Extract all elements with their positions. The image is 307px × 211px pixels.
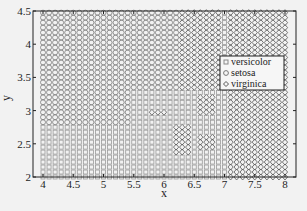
versicolor-marker	[83, 145, 87, 149]
setosa-marker	[47, 30, 52, 35]
versicolor-marker	[156, 165, 160, 169]
versicolor-marker	[216, 165, 220, 169]
setosa-marker	[95, 100, 100, 105]
versicolor-marker	[71, 145, 75, 149]
setosa-marker	[47, 65, 52, 70]
setosa-marker	[143, 25, 148, 30]
setosa-marker	[65, 70, 70, 75]
setosa-marker	[95, 90, 100, 95]
setosa-marker	[95, 85, 100, 90]
versicolor-marker	[83, 130, 87, 134]
versicolor-marker	[138, 90, 142, 94]
versicolor-marker	[198, 170, 202, 174]
setosa-marker	[53, 65, 58, 70]
setosa-marker	[83, 75, 88, 80]
setosa-marker	[101, 55, 106, 60]
y-tick-label: 3	[26, 105, 32, 117]
setosa-marker	[53, 25, 58, 30]
setosa-marker	[59, 95, 64, 100]
setosa-marker	[113, 40, 118, 45]
setosa-marker	[59, 45, 64, 50]
versicolor-marker	[204, 160, 208, 164]
setosa-marker	[168, 30, 173, 35]
versicolor-marker	[156, 90, 160, 94]
versicolor-marker	[150, 135, 154, 139]
setosa-marker	[143, 80, 148, 85]
x-tick-label: 6.5	[187, 178, 201, 190]
versicolor-marker	[53, 150, 57, 154]
versicolor-marker	[132, 145, 136, 149]
versicolor-marker	[77, 155, 81, 159]
setosa-marker	[155, 30, 160, 35]
setosa-marker	[162, 35, 167, 40]
setosa-marker	[71, 100, 76, 105]
setosa-marker	[174, 50, 179, 55]
setosa-marker	[174, 30, 179, 35]
y-axis-label: y	[0, 95, 13, 101]
versicolor-marker	[114, 145, 118, 149]
versicolor-marker	[102, 135, 106, 139]
versicolor-marker	[132, 130, 136, 134]
versicolor-marker	[162, 100, 166, 104]
setosa-marker	[83, 85, 88, 90]
setosa-marker	[101, 115, 106, 120]
setosa-marker	[113, 115, 118, 120]
setosa-marker	[162, 70, 167, 75]
y-tick-label: 3.5	[17, 71, 31, 83]
versicolor-marker	[186, 110, 190, 114]
versicolor-marker	[120, 160, 124, 164]
setosa-marker	[89, 55, 94, 60]
setosa-marker	[53, 55, 58, 60]
setosa-marker	[59, 120, 64, 125]
setosa-marker	[77, 95, 82, 100]
setosa-marker	[95, 110, 100, 115]
versicolor-marker	[180, 100, 184, 104]
setosa-marker	[41, 35, 46, 40]
versicolor-marker	[144, 110, 148, 114]
versicolor-marker	[198, 165, 202, 169]
setosa-marker	[59, 60, 64, 65]
versicolor-marker	[144, 125, 148, 129]
setosa-marker	[107, 15, 112, 20]
setosa-marker	[95, 35, 100, 40]
versicolor-marker	[47, 155, 51, 159]
versicolor-marker	[192, 165, 196, 169]
setosa-marker	[149, 75, 154, 80]
versicolor-marker	[83, 125, 87, 129]
setosa-marker	[71, 30, 76, 35]
versicolor-marker	[65, 130, 69, 134]
setosa-marker	[65, 90, 70, 95]
versicolor-marker	[168, 110, 172, 114]
setosa-marker	[119, 80, 124, 85]
setosa-marker	[168, 70, 173, 75]
versicolor-marker	[53, 155, 57, 159]
versicolor-marker	[180, 105, 184, 109]
setosa-marker	[65, 50, 70, 55]
setosa-marker	[83, 115, 88, 120]
versicolor-marker	[83, 165, 87, 169]
versicolor-marker	[144, 115, 148, 119]
setosa-marker	[113, 80, 118, 85]
versicolor-marker	[186, 115, 190, 119]
setosa-marker	[119, 105, 124, 110]
versicolor-marker	[216, 110, 220, 114]
setosa-marker	[83, 55, 88, 60]
setosa-marker	[107, 20, 112, 25]
setosa-marker	[65, 25, 70, 30]
setosa-marker	[125, 115, 130, 120]
versicolor-marker	[204, 120, 208, 124]
setosa-marker	[89, 65, 94, 70]
setosa-marker	[71, 115, 76, 120]
setosa-marker	[162, 80, 167, 85]
setosa-marker	[125, 90, 130, 95]
setosa-marker	[107, 25, 112, 30]
versicolor-marker	[138, 105, 142, 109]
setosa-marker	[77, 35, 82, 40]
setosa-marker	[77, 55, 82, 60]
versicolor-marker	[77, 145, 81, 149]
setosa-marker	[41, 90, 46, 95]
setosa-marker	[83, 35, 88, 40]
versicolor-marker	[83, 140, 87, 144]
setosa-marker	[47, 105, 52, 110]
setosa-marker	[113, 50, 118, 55]
